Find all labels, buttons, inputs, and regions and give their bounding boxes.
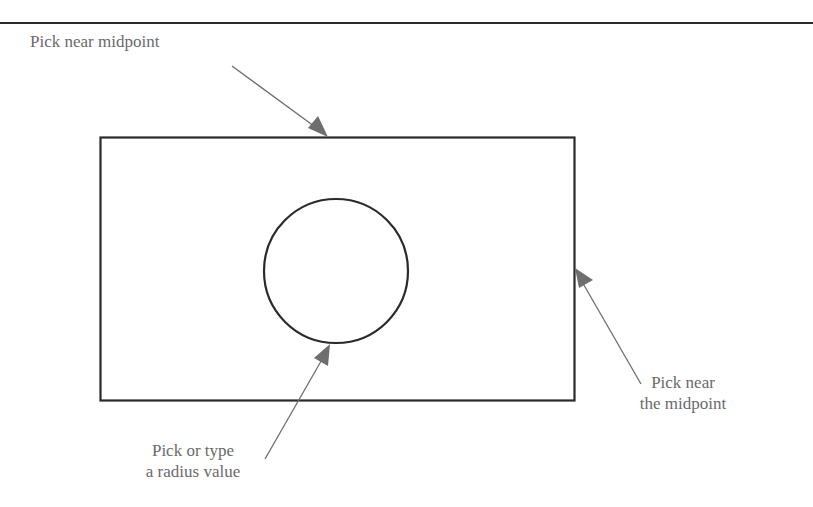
arrowhead-icon [575,268,593,288]
rectangle-shape [101,138,575,401]
top-callout-arrow [232,66,328,137]
callout-text-line-2: the midpoint [628,393,738,414]
arrowhead-icon [314,344,330,366]
callout-text-line-2: a radius value [128,461,258,482]
callout-label-bottom: Pick or type a radius value [128,440,258,482]
diagram-canvas: Pick near midpoint Pick or type a radius… [0,0,813,507]
callout-text-line-1: Pick or type [128,440,258,461]
callout-text: Pick near midpoint [30,31,159,52]
callout-label-right: Pick near the midpoint [628,372,738,414]
diagram-drawing [0,0,813,507]
arrowhead-icon [308,116,328,137]
right-callout-arrow [575,268,641,384]
callout-text-line-1: Pick near [628,372,738,393]
callout-label-top: Pick near midpoint [30,31,159,52]
circle-shape [264,199,408,343]
